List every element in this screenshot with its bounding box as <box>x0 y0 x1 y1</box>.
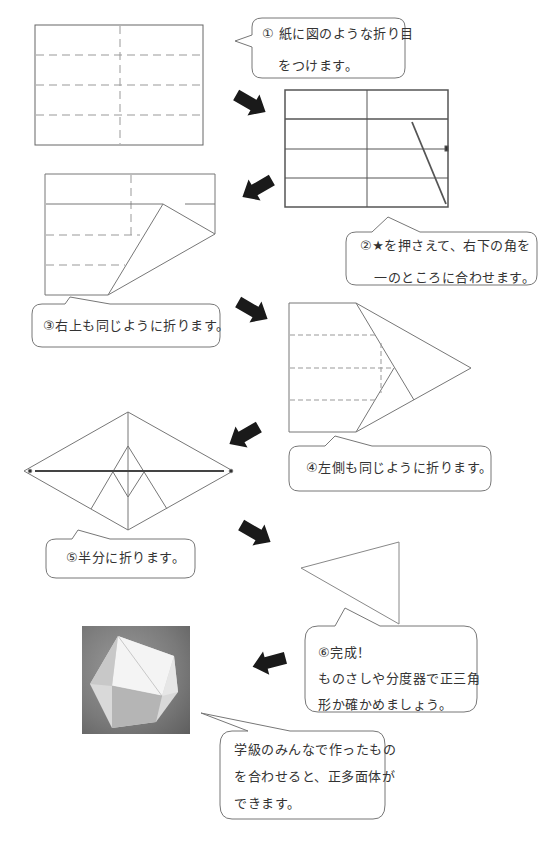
arrow-right-down-icon <box>235 515 276 553</box>
arrow-left-down-icon <box>223 417 264 455</box>
step3-paper <box>45 174 215 295</box>
step1-paper <box>35 25 203 145</box>
icosahedron-shape <box>82 626 190 734</box>
step3-text: ③右上も同じように折ります。 <box>43 310 230 342</box>
closing-note-text: 学級のみんなで作ったもの を合わせると、正多面体が できます。 <box>234 736 396 817</box>
step4-text: ④左側も同じように折ります。 <box>306 452 493 484</box>
step2-paper <box>285 90 448 207</box>
step4-line1: ④左側も同じように折ります。 <box>306 452 493 484</box>
arrow-right-down-icon <box>232 292 273 330</box>
step1-line1: ① 紙に図のような折り目 <box>262 18 414 50</box>
step2-text: ②★を押さえて、右下の角を 一のところに合わせます。 <box>360 230 535 294</box>
arrow-right-down-icon <box>230 85 271 123</box>
closing-line2: を合わせると、正多面体が <box>234 763 396 790</box>
arrow-left-down-icon <box>236 170 277 208</box>
step4-paper <box>289 303 471 432</box>
closing-line3: できます。 <box>234 790 396 817</box>
step2-line1: ②★を押さえて、右下の角を <box>360 230 535 262</box>
arrows <box>223 85 288 679</box>
step3-line1: ③右上も同じように折ります。 <box>43 310 230 342</box>
step2-line2: 一のところに合わせます。 <box>360 262 535 294</box>
closing-line1: 学級のみんなで作ったもの <box>234 736 396 763</box>
arrow-left-icon <box>250 646 289 678</box>
icosahedron-photo <box>82 626 190 734</box>
step5-diamond <box>24 412 233 530</box>
step5-line1: ⑤半分に折ります。 <box>66 542 185 574</box>
step5-text: ⑤半分に折ります。 <box>66 542 185 574</box>
step6-text: ⑥完成！ ものさしや分度器で正三角 形か確かめましょう。 <box>318 640 480 718</box>
step6-line3: 形か確かめましょう。 <box>318 692 480 718</box>
step1-line2: をつけます。 <box>262 50 414 82</box>
step6-line2: ものさしや分度器で正三角 <box>318 666 480 692</box>
step6-line1: ⑥完成！ <box>318 640 480 666</box>
step1-text: ① 紙に図のような折り目 をつけます。 <box>262 18 414 82</box>
